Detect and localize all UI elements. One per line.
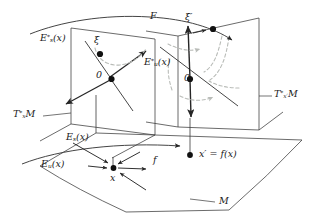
dashed-curve-upper-right-2 bbox=[210, 37, 229, 80]
leader-left-cotangent-label bbox=[43, 113, 71, 116]
unstable-direction-arrow-base-left bbox=[88, 166, 107, 168]
vertical-fibre-connectors bbox=[96, 95, 190, 168]
label-lift-map-F: F bbox=[150, 11, 157, 21]
manifold-outline bbox=[40, 133, 302, 212]
image-point-dot bbox=[187, 152, 193, 158]
right-plane-bottom-ext bbox=[146, 122, 178, 127]
right-cotangent-plane bbox=[146, 18, 283, 130]
label-base-point-x: x bbox=[110, 173, 115, 183]
label-left-cotangent-space: T*xM bbox=[13, 109, 35, 120]
left-cotangent-plane bbox=[40, 28, 155, 158]
dashed-curve-lower bbox=[180, 96, 213, 100]
expanding-direction-arrow-down bbox=[190, 79, 191, 117]
xi-point bbox=[97, 51, 103, 57]
right-plane-left-edge-ext bbox=[146, 31, 178, 36]
cotangent-hyperbolicity-diagram: E*s(x) E*u(x) 0 0 ξ ξ′ F f T*xM T*x′M Es… bbox=[0, 0, 317, 224]
label-left-plane-unstable-subspace: E*u(x) bbox=[144, 57, 170, 68]
stable-direction-arrow-base bbox=[73, 143, 108, 163]
xi-prime-point bbox=[210, 26, 216, 32]
stable-direction-arrow-left-plane bbox=[66, 79, 112, 104]
dashed-curve-upper-left bbox=[168, 44, 200, 50]
label-base-stable-subspace: Es(x) bbox=[66, 132, 89, 143]
right-plane-dashed-level-curves bbox=[168, 36, 239, 100]
unstable-axis-line-left-plane bbox=[110, 78, 133, 111]
left-plane-splitting-axes bbox=[66, 41, 146, 111]
label-left-plane-stable-subspace: E*s(x) bbox=[40, 33, 66, 44]
xi-prime-pointer-arrow bbox=[193, 30, 206, 33]
label-manifold-M: M bbox=[219, 196, 229, 206]
label-base-unstable-subspace: Eu(x) bbox=[41, 159, 65, 170]
stable-direction-arrow-base-lower bbox=[120, 173, 146, 190]
label-xi-prime: ξ′ bbox=[185, 12, 192, 22]
left-plane-origin-point bbox=[108, 76, 114, 82]
right-plane-splitting-axes bbox=[160, 26, 238, 117]
leader-manifold-label bbox=[190, 199, 215, 202]
label-image-point: x′ = f(x) bbox=[199, 149, 237, 159]
label-right-plane-origin: 0 bbox=[184, 73, 190, 83]
label-xi: ξ bbox=[94, 35, 99, 45]
left-plane-foot-right bbox=[112, 135, 155, 158]
label-left-plane-origin: 0 bbox=[96, 70, 102, 80]
base-point-x-dot bbox=[111, 165, 117, 171]
label-base-map-f: f bbox=[153, 155, 157, 165]
leader-lines bbox=[43, 96, 272, 202]
base-manifold-plane bbox=[40, 133, 302, 212]
dashed-curve-upper-right bbox=[204, 36, 222, 72]
unstable-direction-arrow-base-right bbox=[118, 168, 146, 169]
stable-arrow-base-upper-right bbox=[118, 152, 140, 164]
contracting-axis-line-right-plane bbox=[160, 47, 238, 106]
right-plane-foot bbox=[259, 112, 283, 130]
label-right-cotangent-space: T*x′M bbox=[274, 89, 298, 100]
